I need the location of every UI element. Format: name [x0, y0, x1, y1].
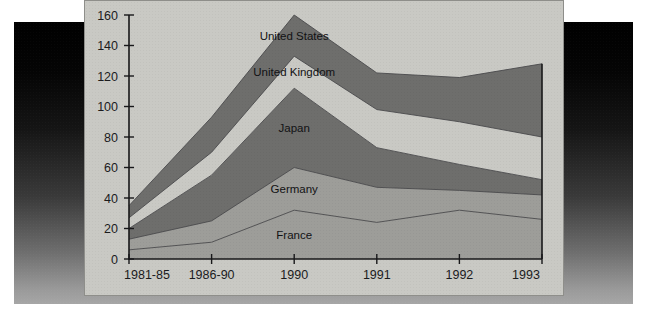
screenshot-root: 020406080100120140160 1981-851986-901990… — [0, 0, 647, 322]
x-tick-label: 1981-85 — [124, 268, 170, 282]
y-tick-label: 140 — [97, 39, 118, 53]
y-tick-label: 20 — [104, 222, 118, 236]
area-bands — [129, 15, 542, 259]
series-label-united-states: United States — [260, 30, 329, 42]
y-tick-label: 160 — [97, 9, 118, 23]
series-label-japan: Japan — [279, 122, 310, 134]
x-tick-label: 1986-90 — [189, 268, 235, 282]
y-tick-label: 120 — [97, 70, 118, 84]
y-tick-label: 60 — [104, 161, 118, 175]
series-label-germany: Germany — [271, 183, 319, 195]
x-tick-label: 1990 — [280, 268, 308, 282]
y-tick-label: 0 — [111, 253, 118, 267]
y-tick-label: 80 — [104, 131, 118, 145]
y-tick-label: 100 — [97, 100, 118, 114]
chart-card: 020406080100120140160 1981-851986-901990… — [84, 0, 564, 296]
x-tick-label: 1992 — [445, 268, 473, 282]
y-tick-label: 40 — [104, 192, 118, 206]
stacked-area-chart: 020406080100120140160 1981-851986-901990… — [85, 1, 565, 297]
series-label-france: France — [276, 229, 312, 241]
x-tick-label: 1991 — [363, 268, 391, 282]
plot-area: 020406080100120140160 1981-851986-901990… — [85, 1, 565, 297]
x-tick-label: 1993 — [512, 268, 540, 282]
series-label-united-kingdom: United Kingdom — [253, 66, 335, 78]
